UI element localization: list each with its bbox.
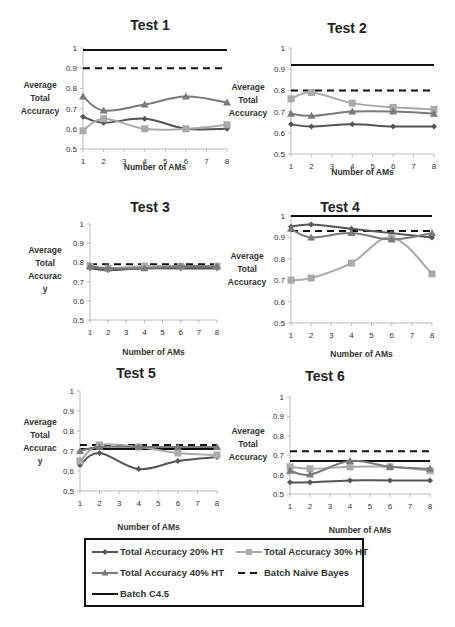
y-axis-label: Average — [230, 251, 264, 261]
legend-label: Total Accuracy 40% HT — [120, 567, 224, 578]
y-tick-label: 0.9 — [274, 233, 286, 242]
x-tick-label: 8 — [225, 157, 230, 166]
chart-grid: Test 10.50.60.70.80.9112345678AverageTot… — [0, 0, 455, 627]
y-axis-label: Average — [23, 80, 57, 90]
y-axis-label: Average — [23, 417, 57, 427]
diamond-marker-icon — [431, 123, 437, 129]
y-tick-label: 0.8 — [274, 255, 286, 264]
y-tick-label: 1 — [281, 44, 286, 53]
y-axis-label: Total — [30, 430, 50, 440]
y-tick-label: 0.8 — [66, 84, 78, 93]
chart-title: Test 6 — [305, 368, 345, 384]
chart-title: Test 1 — [130, 17, 170, 33]
x-tick-label: 2 — [101, 157, 106, 166]
y-axis-label: Total — [35, 258, 55, 268]
diamond-marker-icon — [308, 123, 314, 129]
diamond-marker-icon — [427, 477, 433, 483]
square-marker-icon — [308, 275, 315, 282]
x-tick-label: 3 — [117, 499, 122, 508]
diamond-marker-icon — [307, 479, 313, 485]
chart-test-3: Test 30.50.60.70.80.9112345678AverageTot… — [28, 199, 221, 357]
y-tick-label: 1 — [280, 393, 285, 402]
x-tick-label: 8 — [215, 328, 220, 337]
x-tick-label: 7 — [195, 499, 200, 508]
x-tick-label: 5 — [369, 331, 374, 340]
x-tick-label: 2 — [309, 331, 314, 340]
y-tick-label: 1 — [80, 220, 85, 229]
x-tick-label: 5 — [368, 502, 373, 511]
y-axis-label: y — [38, 456, 43, 466]
y-tick-label: 0.7 — [273, 451, 285, 460]
x-axis-label: Number of AMs — [124, 162, 187, 172]
diamond-marker-icon — [136, 466, 142, 472]
x-axis-label: Number of AMs — [329, 525, 392, 535]
x-tick-label: 8 — [432, 162, 437, 171]
diamond-marker-icon — [175, 458, 181, 464]
x-tick-label: 8 — [428, 502, 433, 511]
y-tick-label: 0.6 — [66, 125, 78, 134]
y-tick-label: 1 — [70, 387, 75, 396]
y-tick-label: 0.5 — [73, 316, 85, 325]
legend-item-c45: Batch C4.5 — [92, 588, 169, 599]
x-axis-label: Number of AMs — [117, 522, 180, 532]
x-tick-label: 2 — [309, 162, 314, 171]
x-tick-label: 7 — [204, 157, 209, 166]
square-marker-icon — [77, 458, 84, 465]
square-marker-icon — [141, 125, 148, 132]
x-tick-label: 8 — [215, 499, 220, 508]
y-tick-label: 0.8 — [273, 432, 285, 441]
square-marker-icon — [349, 100, 356, 107]
y-axis-label: Accuracy — [21, 106, 60, 116]
diamond-marker-icon — [80, 114, 86, 120]
y-tick-label: 0.5 — [274, 150, 286, 159]
x-tick-label: 4 — [349, 331, 354, 340]
chart-title: Test 2 — [327, 20, 367, 36]
y-tick-label: 0.8 — [274, 86, 286, 95]
y-tick-label: 0.7 — [274, 108, 286, 117]
x-tick-label: 6 — [178, 328, 183, 337]
chart-title: Test 5 — [116, 365, 156, 381]
chart-test-6: Test 60.50.60.70.80.9112345678AverageTot… — [229, 368, 434, 535]
y-tick-label: 0.9 — [63, 407, 75, 416]
y-tick-label: 0.5 — [274, 319, 286, 328]
legend-label: Total Accuracy 20% HT — [120, 546, 224, 557]
chart-test-1: Test 10.50.60.70.80.9112345678AverageTot… — [21, 17, 231, 172]
y-tick-label: 0.5 — [63, 487, 75, 496]
legend-label: Total Accuracy 30% HT — [264, 546, 368, 557]
y-axis-label: Total — [238, 95, 258, 105]
solid-line-icon — [92, 589, 118, 599]
x-tick-label: 1 — [78, 499, 83, 508]
x-tick-label: 6 — [388, 502, 393, 511]
square-marker-icon — [100, 115, 107, 122]
x-tick-label: 7 — [411, 162, 416, 171]
x-tick-label: 2 — [106, 328, 111, 337]
diamond-marker-icon — [349, 121, 355, 127]
x-tick-label: 3 — [124, 328, 129, 337]
y-axis-label: y — [43, 284, 48, 294]
y-tick-label: 0.7 — [274, 276, 286, 285]
y-tick-label: 0.7 — [66, 105, 78, 114]
chart-test-2: Test 20.50.60.70.80.9112345678AverageTot… — [229, 20, 438, 177]
x-tick-label: 1 — [88, 328, 93, 337]
x-tick-label: 4 — [142, 328, 147, 337]
y-axis-label: Average — [231, 82, 265, 92]
y-tick-label: 0.9 — [66, 64, 78, 73]
diamond-marker-icon — [288, 121, 294, 127]
diamond-marker-icon — [92, 547, 118, 557]
chart-test-5: Test 50.50.60.70.80.9112345678AverageTot… — [23, 365, 221, 532]
x-tick-label: 5 — [160, 328, 165, 337]
y-axis-label: Average — [231, 426, 265, 436]
x-tick-label: 1 — [289, 162, 294, 171]
y-axis-label: Total — [237, 264, 257, 274]
x-axis-label: Number of AMs — [331, 167, 394, 177]
chart-test-4: Test 40.50.60.70.80.9112345678AverageTot… — [228, 199, 436, 359]
x-axis-label: Number of AMs — [330, 349, 393, 359]
y-tick-label: 1 — [281, 212, 286, 221]
y-axis-label: Accuracy — [229, 108, 268, 118]
square-marker-icon — [174, 450, 181, 457]
x-tick-label: 7 — [410, 331, 415, 340]
x-tick-label: 2 — [97, 499, 102, 508]
diamond-marker-icon — [347, 477, 353, 483]
diamond-marker-icon — [387, 477, 393, 483]
x-tick-label: 5 — [156, 499, 161, 508]
